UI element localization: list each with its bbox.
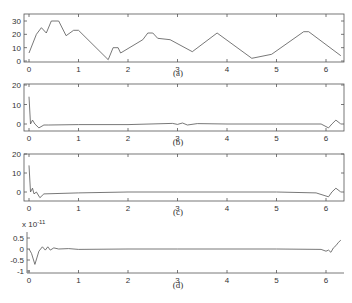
panel-d: 0123456-1-0.500.5(d)x 10-11 (10, 219, 344, 290)
x-tick-label: 5 (274, 204, 279, 213)
panel-caption: (b) (173, 137, 184, 147)
x-tick-label: 2 (126, 204, 131, 213)
figure: 01234560102030(a)012345601020(b)01234560… (0, 0, 352, 303)
axes-box (24, 14, 344, 62)
y-tick-label: 10 (12, 169, 21, 178)
x-tick-label: 4 (225, 276, 230, 285)
x-tick-label: 5 (274, 65, 279, 74)
y-tick-label: 0 (17, 120, 22, 129)
x-tick-label: 2 (126, 276, 131, 285)
panel-caption: (d) (173, 280, 184, 290)
y-tick-label: 10 (12, 101, 21, 110)
series-line (29, 165, 341, 197)
x-tick-label: 5 (274, 276, 279, 285)
x-tick-label: 2 (126, 65, 131, 74)
axes-box (24, 154, 344, 201)
x-tick-label: 6 (324, 204, 329, 213)
panel-b: 012345601020(b) (12, 81, 344, 147)
y-multiplier-label: x 10-11 (22, 219, 46, 229)
x-tick-label: 0 (27, 204, 32, 213)
x-tick-label: 2 (126, 134, 131, 143)
x-tick-label: 4 (225, 204, 230, 213)
y-tick-label: -0.5 (10, 256, 24, 265)
x-tick-label: 5 (274, 134, 279, 143)
series-line (29, 97, 341, 128)
y-tick-label: 0.5 (13, 234, 25, 243)
x-tick-label: 0 (27, 276, 32, 285)
y-tick-label: 0 (20, 245, 25, 254)
panel-caption: (a) (173, 68, 183, 78)
y-tick-label: -1 (17, 267, 25, 276)
x-tick-label: 0 (27, 65, 32, 74)
x-tick-label: 0 (27, 134, 32, 143)
panel-c: 012345601020(c) (12, 150, 344, 217)
x-tick-label: 6 (324, 65, 329, 74)
x-tick-label: 1 (76, 204, 81, 213)
panel-caption: (c) (173, 207, 183, 217)
series-line (29, 240, 341, 264)
y-tick-label: 0 (17, 57, 22, 66)
y-tick-label: 20 (12, 150, 21, 159)
x-tick-label: 1 (76, 276, 81, 285)
x-tick-label: 6 (324, 134, 329, 143)
y-tick-label: 20 (12, 30, 21, 39)
y-tick-label: 10 (12, 44, 21, 53)
x-tick-label: 1 (76, 134, 81, 143)
panel-a: 01234560102030(a) (12, 14, 344, 78)
y-tick-label: 30 (12, 17, 21, 26)
y-tick-label: 20 (12, 81, 21, 90)
y-tick-label: 0 (17, 188, 22, 197)
series-line (29, 21, 341, 60)
x-tick-label: 6 (324, 276, 329, 285)
x-tick-label: 1 (76, 65, 81, 74)
x-tick-label: 4 (225, 65, 230, 74)
x-tick-label: 4 (225, 134, 230, 143)
